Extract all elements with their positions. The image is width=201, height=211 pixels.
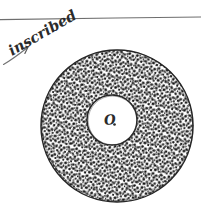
annulus-shape: O [30,42,201,211]
hand-drawn-figure: O inscribed [0,0,201,211]
center-label-O: O [103,111,117,128]
figure-canvas: O inscribed [0,0,201,211]
